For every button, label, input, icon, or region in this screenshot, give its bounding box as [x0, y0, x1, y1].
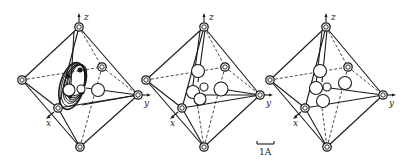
z-axis-label: z — [330, 12, 336, 22]
octahedron-panel-3: z y x — [266, 12, 396, 151]
x-axis-label: x — [293, 118, 298, 128]
atom — [77, 85, 85, 93]
y-axis-label: y — [388, 98, 395, 108]
octahedron-panel-1: z y x — [18, 12, 151, 151]
x-axis-label: x — [170, 118, 175, 128]
scale-bar-label: 1A — [259, 147, 272, 157]
octahedra-figure: z y x — [0, 0, 410, 162]
y-axis-label: y — [265, 98, 272, 108]
scale-bar: 1A — [257, 141, 274, 157]
octahedron-panel-2: z y x — [142, 12, 273, 151]
atom — [63, 84, 75, 96]
z-axis-label: z — [208, 12, 214, 22]
x-axis-label: x — [46, 118, 51, 128]
z-axis-label: z — [83, 12, 89, 22]
y-axis-label: y — [143, 98, 150, 108]
atom — [92, 84, 105, 97]
